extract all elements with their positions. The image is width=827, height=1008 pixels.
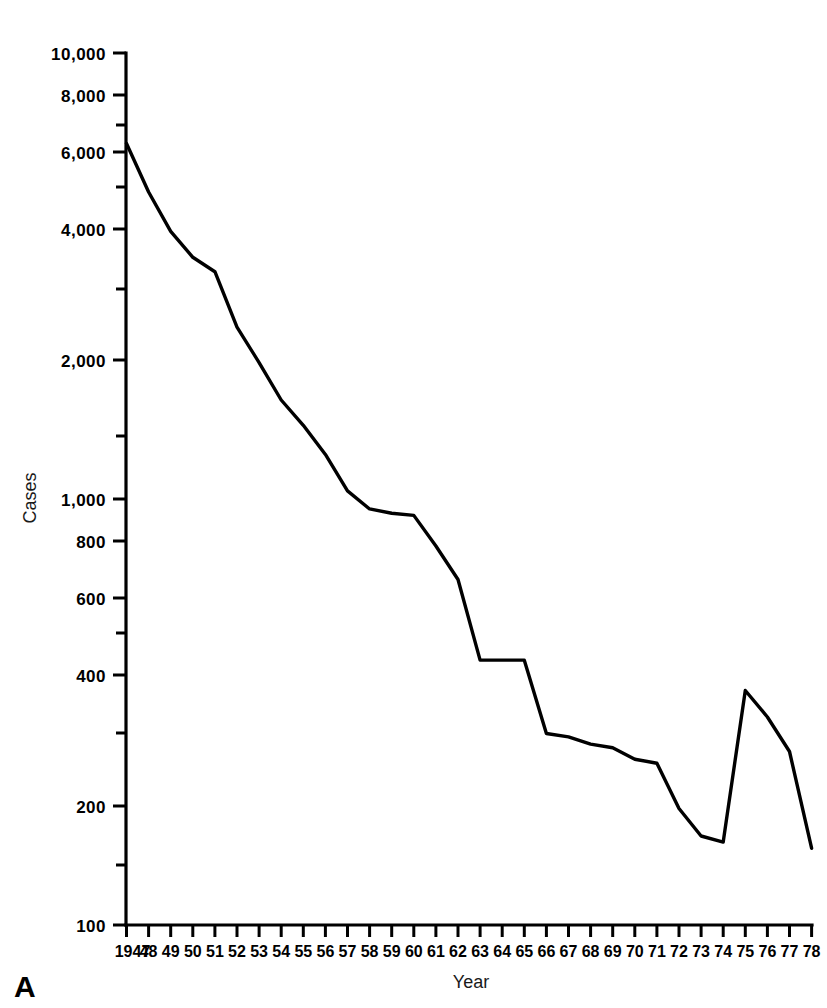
x-tick-label: 65 <box>515 943 533 960</box>
x-tick-label: 51 <box>206 943 224 960</box>
x-tick-label: 62 <box>449 943 467 960</box>
x-tick-label: 52 <box>228 943 246 960</box>
x-tick-label: 71 <box>648 943 666 960</box>
y-tick-label: 8,000 <box>61 87 106 106</box>
panel-letter: A <box>14 970 36 1003</box>
x-axis-title: Year <box>453 972 489 992</box>
x-tick-label: 75 <box>736 943 754 960</box>
x-tick-label: 78 <box>803 943 821 960</box>
x-tick-label: 70 <box>626 943 644 960</box>
x-tick-label: 48 <box>140 943 158 960</box>
x-tick-label: 66 <box>538 943 556 960</box>
x-tick-label: 63 <box>471 943 489 960</box>
x-axis-ticks <box>127 925 812 937</box>
y-tick-label: 10,000 <box>51 45 106 64</box>
figure-panel-a: 10,000 8,000 6,000 4,000 2,000 1,000 800… <box>0 0 827 1008</box>
x-tick-label: 60 <box>405 943 423 960</box>
y-tick-label: 6,000 <box>61 144 106 163</box>
y-tick-label: 100 <box>76 917 106 936</box>
x-tick-label: 68 <box>582 943 600 960</box>
y-tick-label: 200 <box>76 798 106 817</box>
x-tick-label: 73 <box>692 943 710 960</box>
x-tick-label: 77 <box>781 943 799 960</box>
y-tick-label: 600 <box>76 590 106 609</box>
data-series-line <box>127 144 812 849</box>
x-tick-label: 64 <box>493 943 511 960</box>
x-tick-label: 56 <box>317 943 335 960</box>
x-tick-label: 55 <box>294 943 312 960</box>
x-axis-tick-labels: 1947484950515253545556575859606162636465… <box>115 943 821 960</box>
line-chart: 10,000 8,000 6,000 4,000 2,000 1,000 800… <box>0 0 827 1008</box>
x-tick-label: 61 <box>427 943 445 960</box>
x-tick-label: 54 <box>272 943 290 960</box>
y-axis-title: Cases <box>20 472 40 523</box>
y-tick-label: 1,000 <box>61 491 106 510</box>
x-tick-label: 72 <box>670 943 688 960</box>
x-tick-label: 74 <box>714 943 732 960</box>
y-axis-ticks <box>113 53 126 925</box>
x-tick-label: 50 <box>184 943 202 960</box>
y-tick-label: 2,000 <box>61 352 106 371</box>
y-tick-label: 400 <box>76 667 106 686</box>
x-tick-label: 58 <box>361 943 379 960</box>
x-tick-label: 69 <box>604 943 622 960</box>
y-axis-tick-labels: 10,000 8,000 6,000 4,000 2,000 1,000 800… <box>51 45 106 936</box>
y-tick-label: 800 <box>76 533 106 552</box>
x-tick-label: 49 <box>162 943 180 960</box>
x-tick-label: 53 <box>250 943 268 960</box>
x-tick-label: 76 <box>759 943 777 960</box>
y-tick-label: 4,000 <box>61 221 106 240</box>
x-tick-label: 57 <box>339 943 357 960</box>
x-tick-label: 67 <box>560 943 578 960</box>
x-tick-label: 59 <box>383 943 401 960</box>
